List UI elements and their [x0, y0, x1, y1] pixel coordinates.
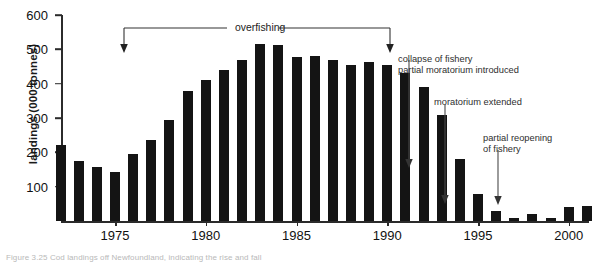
bar — [310, 56, 320, 221]
bar — [273, 45, 283, 221]
y-axis-label: landings (000 tonnes) — [27, 9, 39, 199]
y-tick-label: 200 — [0, 146, 48, 159]
y-tick-label: 300 — [0, 112, 48, 125]
bar — [582, 206, 592, 221]
x-tick-mark — [569, 221, 571, 226]
bar — [255, 44, 265, 221]
bar — [74, 161, 84, 221]
moratorium-extended-label: moratorium extended — [434, 96, 522, 108]
bar — [491, 211, 501, 221]
y-tick-label: 100 — [0, 180, 48, 193]
x-tick-label: 1990 — [373, 228, 402, 243]
bar — [527, 214, 537, 221]
bar — [237, 60, 247, 221]
bar — [473, 194, 483, 221]
x-tick-label: 1985 — [282, 228, 311, 243]
overfishing-label: overfishing — [235, 22, 285, 33]
x-tick-mark — [387, 221, 389, 226]
y-tick-label: 600 — [0, 9, 48, 22]
bar — [92, 167, 102, 221]
bar — [437, 115, 447, 221]
x-tick-label: 1980 — [191, 228, 220, 243]
figure-cod-landings: landings (000 tonnes) 100200300400500600… — [0, 0, 593, 265]
bar — [419, 87, 429, 221]
bar — [146, 140, 156, 221]
bar — [110, 172, 120, 221]
figure-caption: Figure 3.25 Cod landings off Newfoundlan… — [6, 253, 262, 262]
bar — [400, 73, 410, 221]
bar — [201, 80, 211, 221]
bar — [455, 159, 465, 221]
bar — [382, 65, 392, 221]
bar — [219, 70, 229, 221]
bar — [328, 60, 338, 221]
x-tick-mark — [115, 221, 117, 226]
x-tick-label: 1995 — [464, 228, 493, 243]
bar — [183, 91, 193, 221]
bar — [164, 120, 174, 221]
y-tick-label: 400 — [0, 77, 48, 90]
y-tick-label: 500 — [0, 43, 48, 56]
plot-area — [61, 15, 589, 221]
x-axis-line — [61, 221, 589, 223]
x-tick-mark — [206, 221, 208, 226]
bar — [364, 62, 374, 221]
x-tick-mark — [297, 221, 299, 226]
x-tick-label: 2000 — [554, 228, 583, 243]
bar — [56, 145, 66, 221]
bar — [346, 65, 356, 221]
bar — [292, 57, 302, 221]
bar — [564, 207, 574, 221]
collapse-label-line2: partial moratorium introduced — [398, 64, 519, 76]
x-tick-label: 1975 — [101, 228, 130, 243]
bar — [128, 154, 138, 221]
partial-reopening-label-line2: of fishery — [483, 143, 521, 155]
x-tick-mark — [478, 221, 480, 226]
